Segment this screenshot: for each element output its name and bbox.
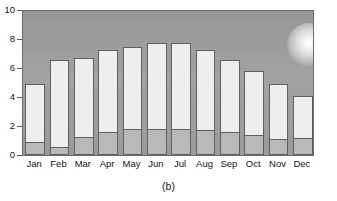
y-tick-label: 8 xyxy=(0,34,15,44)
bar-lower-segment xyxy=(75,137,92,154)
y-axis-line xyxy=(22,10,23,156)
bar-total[interactable] xyxy=(50,60,69,155)
bar-lower-segment xyxy=(270,139,287,154)
bar-total[interactable] xyxy=(171,43,190,155)
bar-group[interactable] xyxy=(171,10,190,155)
bar-group[interactable] xyxy=(25,10,44,155)
y-tick-label: 0 xyxy=(0,150,15,160)
bar-lower-segment xyxy=(124,129,141,154)
bar-total[interactable] xyxy=(123,47,142,155)
bar-total[interactable] xyxy=(220,60,239,155)
y-tick-label: 2 xyxy=(0,121,15,131)
figure-container: 0 2 4 6 8 10 JanFebMarAprMayJunJulAugSep… xyxy=(0,0,337,201)
y-tick-label: 4 xyxy=(0,92,15,102)
bar-lower-segment xyxy=(26,142,43,154)
bar-lower-segment xyxy=(245,135,262,154)
bar-lower-segment xyxy=(172,129,189,154)
x-tick-label: Dec xyxy=(284,159,320,169)
x-axis-line xyxy=(22,155,314,156)
plot-area xyxy=(22,10,314,156)
bar-group[interactable] xyxy=(220,10,239,155)
bar-group[interactable] xyxy=(244,10,263,155)
bar-group[interactable] xyxy=(269,10,288,155)
bar-group[interactable] xyxy=(98,10,117,155)
bar-lower-segment xyxy=(148,129,165,154)
bar-lower-segment xyxy=(51,147,68,154)
bar-total[interactable] xyxy=(269,84,288,155)
y-tick-label: 6 xyxy=(0,63,15,73)
bar-total[interactable] xyxy=(147,43,166,155)
bar-group[interactable] xyxy=(293,10,312,155)
bar-series-container xyxy=(23,11,313,155)
bar-lower-segment xyxy=(197,130,214,154)
bar-total[interactable] xyxy=(74,58,93,155)
figure-caption: (b) xyxy=(0,180,337,192)
bar-total[interactable] xyxy=(98,50,117,155)
bar-lower-segment xyxy=(99,132,116,154)
bar-total[interactable] xyxy=(244,71,263,155)
bar-group[interactable] xyxy=(196,10,215,155)
bar-group[interactable] xyxy=(74,10,93,155)
bar-group[interactable] xyxy=(147,10,166,155)
y-tick-label: 10 xyxy=(0,5,15,15)
bar-total[interactable] xyxy=(25,84,44,155)
bar-total[interactable] xyxy=(196,50,215,155)
bar-lower-segment xyxy=(221,132,238,154)
bar-group[interactable] xyxy=(50,10,69,155)
bar-total[interactable] xyxy=(293,96,312,155)
bar-lower-segment xyxy=(294,138,311,154)
bar-group[interactable] xyxy=(123,10,142,155)
